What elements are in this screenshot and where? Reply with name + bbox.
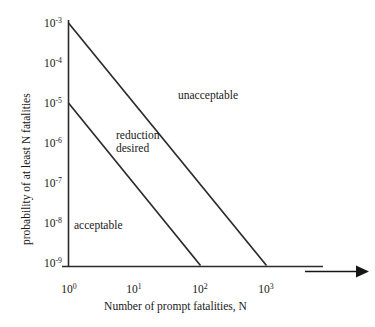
y-tick-label-0: 10-3 (28, 16, 62, 29)
annotation-acceptable: acceptable (74, 219, 123, 232)
x-tick-exponent-1: 1 (138, 282, 142, 291)
y-tick-exponent-4: -7 (55, 176, 62, 185)
annotation-reduction-line2: desired (116, 142, 149, 154)
x-tick-exponent-3: 3 (270, 282, 274, 291)
y-tick-exponent-3: -6 (55, 136, 62, 145)
y-tick-label-3: 10-6 (28, 136, 62, 149)
y-tick-exponent-5: -8 (55, 216, 62, 225)
y-tick-exponent-0: -3 (55, 16, 62, 25)
y-tick-exponent-1: -4 (55, 56, 62, 65)
x-tick-label-1: 101 (114, 282, 154, 295)
lower-criterion-line (69, 103, 201, 266)
chart-canvas (0, 0, 375, 327)
y-axis-title: probability of at least N fatalities (20, 93, 32, 245)
y-tick-label-4: 10-7 (28, 176, 62, 189)
y-tick-label-6: 10-9 (28, 256, 62, 269)
x-tick-label-2: 102 (180, 282, 220, 295)
x-tick-exponent-0: 0 (73, 282, 77, 291)
annotation-unacceptable: unacceptable (178, 89, 238, 102)
y-tick-label-5: 10-8 (28, 216, 62, 229)
y-tick-exponent-2: -5 (55, 96, 62, 105)
annotation-reduction-line1: reduction (116, 129, 159, 141)
y-tick-label-1: 10-4 (28, 56, 62, 69)
annotation-reduction-desired: reduction desired (116, 129, 159, 155)
y-tick-exponent-6: -9 (55, 256, 62, 265)
x-tick-label-0: 100 (49, 282, 89, 295)
x-tick-exponent-2: 2 (204, 282, 208, 291)
farmer-curve-figure: 10-3 10-4 10-5 10-6 10-7 10-8 10-9 100 1… (0, 0, 375, 327)
x-tick-label-3: 103 (246, 282, 286, 295)
x-axis-title: Number of prompt fatalities, N (0, 300, 363, 312)
y-tick-label-2: 10-5 (28, 96, 62, 109)
